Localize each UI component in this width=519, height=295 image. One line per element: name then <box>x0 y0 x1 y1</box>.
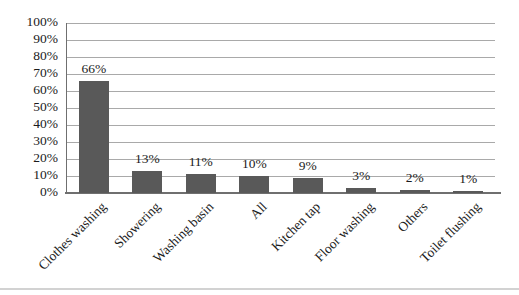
bar-floor-washing <box>346 188 376 193</box>
gridline-40 <box>67 125 495 126</box>
value-label-floor-washing: 3% <box>331 168 391 184</box>
y-tick-label-10: 10% <box>0 167 58 183</box>
y-tick-label-70: 70% <box>0 65 58 81</box>
bar-kitchen-tap <box>293 178 323 193</box>
bar-others <box>400 190 430 193</box>
value-label-toilet-flushing: 1% <box>438 171 498 187</box>
gridline-60 <box>67 91 495 92</box>
y-tick-label-80: 80% <box>0 48 58 64</box>
value-label-kitchen-tap: 9% <box>278 158 338 174</box>
gridline-80 <box>67 57 495 58</box>
y-tick-label-20: 20% <box>0 150 58 166</box>
y-tick-label-30: 30% <box>0 133 58 149</box>
x-axis-line <box>65 192 501 194</box>
gridline-30 <box>67 142 495 143</box>
bar-clothes-washing <box>79 81 109 193</box>
scan-edge-line <box>0 288 519 290</box>
bar-showering <box>132 171 162 193</box>
y-tick-label-100: 100% <box>0 14 58 30</box>
x-label-clothes-washing: Clothes washing <box>35 199 110 274</box>
y-tick-label-0: 0% <box>0 184 58 200</box>
y-tick-label-60: 60% <box>0 82 58 98</box>
x-label-others: Others <box>394 199 431 236</box>
value-label-clothes-washing: 66% <box>64 61 124 77</box>
bar-toilet-flushing <box>453 191 483 193</box>
bar-washing-basin <box>186 174 216 193</box>
y-tick-label-50: 50% <box>0 99 58 115</box>
x-label-kitchen-tap: Kitchen tap <box>268 199 324 255</box>
gridline-70 <box>67 74 495 75</box>
value-label-all: 10% <box>224 156 284 172</box>
gridline-90 <box>67 40 495 41</box>
gridline-50 <box>67 108 495 109</box>
bar-chart-figure: 0%10%20%30%40%50%60%70%80%90%100% 66%13%… <box>0 0 519 295</box>
y-tick-label-90: 90% <box>0 31 58 47</box>
value-label-others: 2% <box>385 170 445 186</box>
gridline-100 <box>67 23 495 24</box>
bar-all <box>239 176 269 193</box>
x-label-all: All <box>247 199 271 223</box>
y-axis-line <box>66 23 67 193</box>
value-label-washing-basin: 11% <box>171 154 231 170</box>
x-label-showering: Showering <box>111 199 164 252</box>
value-label-showering: 13% <box>117 151 177 167</box>
y-tick-label-40: 40% <box>0 116 58 132</box>
